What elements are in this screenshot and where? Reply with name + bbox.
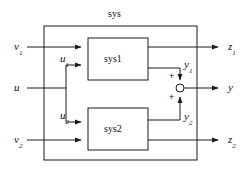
v2-subscript: 2 xyxy=(19,142,23,150)
z2-subscript: 2 xyxy=(232,142,236,150)
z1-subscript: 1 xyxy=(232,49,236,57)
y1-subscript: 1 xyxy=(189,67,193,75)
sum-plus-bottom-sign: + xyxy=(169,93,174,102)
sys1-block-label: sys1 xyxy=(104,54,122,64)
u-base: u xyxy=(14,81,20,93)
u2-signal-label: u2 xyxy=(60,110,69,124)
v1-subscript: 1 xyxy=(19,49,23,57)
v2-input-label: v2 xyxy=(14,134,22,148)
u1-subscript: 1 xyxy=(66,61,70,69)
outer-sys-label: sys xyxy=(108,9,121,19)
y-output-label: y xyxy=(228,82,233,96)
u1-signal-label: u1 xyxy=(60,53,69,67)
u2-subscript: 2 xyxy=(66,118,70,126)
y-base: y xyxy=(228,81,233,93)
y2-signal-label: y2 xyxy=(184,111,192,125)
v1-input-label: v1 xyxy=(14,41,22,55)
u2-base: u xyxy=(60,109,66,121)
z1-output-label: z1 xyxy=(228,41,236,55)
sum-plus-top-sign: + xyxy=(169,72,174,81)
summing-junction xyxy=(176,84,184,92)
z2-output-label: z2 xyxy=(228,134,236,148)
y1-signal-label: y1 xyxy=(184,59,192,73)
block-diagram-canvas: sys sys1 sys2 v1 u v2 u1 u2 y1 y2 + + z1… xyxy=(0,0,251,173)
y2-subscript: 2 xyxy=(189,119,193,127)
diagram-svg xyxy=(0,0,251,173)
u-input-label: u xyxy=(14,82,20,96)
u1-base: u xyxy=(60,52,66,64)
sys2-block-label: sys2 xyxy=(104,124,122,134)
